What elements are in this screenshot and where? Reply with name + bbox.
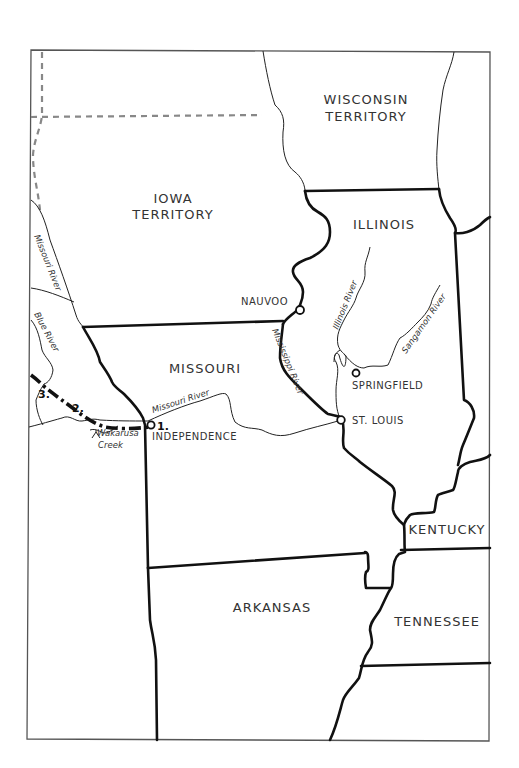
illinois-river-lower [334,350,340,418]
route-marker-1: 1. [157,420,169,433]
tennessee-label: TENNESSEE [393,614,480,629]
tennessee-mississippi-border [361,663,490,666]
springfield-marker[interactable] [353,370,360,377]
arkansas-label: ARKANSAS [233,600,311,615]
missouri-iowa-border [83,321,283,327]
springfield-label: SPRINGFIELD [352,380,423,391]
sangamon-river-label: Sangamon River [399,292,448,356]
map-frame [27,50,490,741]
mississippi-river-illinois-west [283,191,330,324]
arkansas-west-border [148,568,157,740]
nauvoo-label: NAUVOO [241,296,288,307]
iowa-territory-label-2: TERRITORY [131,207,213,222]
route-marker-2: 2. [72,402,84,415]
st-louis-label: ST. LOUIS [352,415,404,426]
wisconsin-illinois-border [305,189,439,191]
kentucky-tennessee-border [401,548,490,550]
wisconsin-east-boundary [437,52,454,190]
territory-boundary-vertical [33,52,42,210]
missouri-river-north [31,200,83,327]
ohio-river [404,455,490,525]
wisconsin-west-boundary [263,51,305,190]
missouri-arkansas-border [148,553,365,568]
independence-marker[interactable] [147,421,154,428]
st-louis-marker[interactable] [337,416,345,424]
indiana-michigan-border [455,217,490,233]
mississippi-river-missouri-east [280,324,405,588]
wisconsin-territory-label: WISCONSIN [324,92,409,107]
iowa-territory-label: IOWA [153,191,192,206]
nauvoo-marker[interactable] [296,306,304,314]
kentucky-label: KENTUCKY [409,522,486,537]
wakarusa-creek-label-2: Creek [98,440,124,450]
historical-map: WISCONSIN TERRITORY IOWA TERRITORY ILLIN… [0,0,519,768]
missouri-label: MISSOURI [169,361,241,376]
missouri-river-north-label: Missouri River [32,233,64,293]
illinois-label: ILLINOIS [353,217,415,232]
wisconsin-territory-label-2: TERRITORY [324,109,406,124]
wakarusa-creek-label: Wakarusa [97,428,139,438]
illinois-river-label: Illinois River [331,279,360,331]
mississippi-river-south [330,588,391,740]
mississippi-river-label: Mississippi River [270,327,306,396]
route-marker-3: 3. [38,388,50,401]
territory-boundary-horizontal [31,115,262,117]
blue-river-label: Blue River [32,310,62,354]
